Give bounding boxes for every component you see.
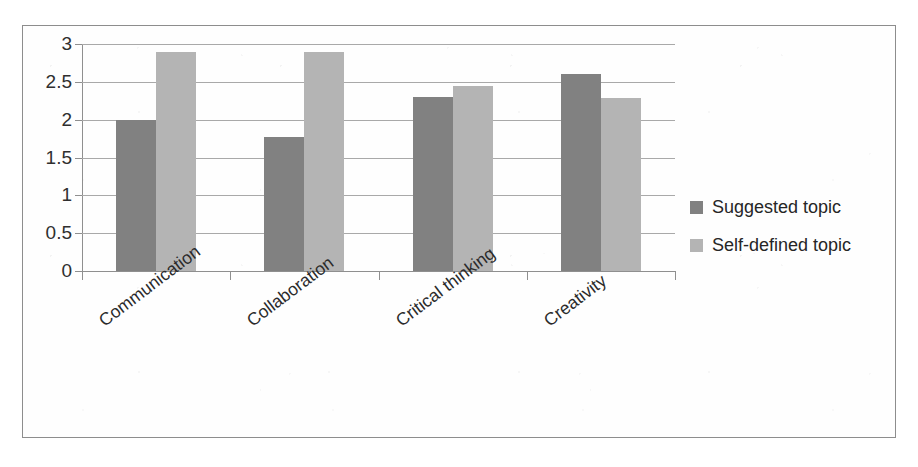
legend-label-1: Self-defined topic (712, 236, 851, 254)
chart-legend: Suggested topicSelf-defined topic (690, 196, 880, 272)
legend-item-self-defined-topic: Self-defined topic (690, 234, 880, 256)
bar-collaboration-suggested-topic (264, 137, 304, 271)
y-tick-label-0.5: 0.5 (24, 223, 72, 242)
y-tick-mark-0 (75, 271, 82, 272)
y-tick-mark-3 (75, 44, 82, 45)
y-tick-label-0: 0 (24, 261, 72, 280)
bar-creativity-self-defined-topic (601, 98, 641, 271)
x-tick-mark-1 (230, 271, 231, 280)
y-tick-label-3: 3 (24, 34, 72, 53)
y-tick-label-1.5: 1.5 (24, 148, 72, 167)
y-tick-label-2: 2 (24, 110, 72, 129)
bar-communication-suggested-topic (116, 120, 156, 271)
y-tick-mark-1 (75, 195, 82, 196)
bar-communication-self-defined-topic (156, 52, 196, 271)
bar-critical-thinking-suggested-topic (413, 97, 453, 271)
plot-area (82, 44, 675, 271)
legend-item-suggested-topic: Suggested topic (690, 196, 880, 218)
legend-swatch-icon-1 (690, 239, 703, 252)
x-tick-mark-2 (379, 271, 380, 280)
y-tick-mark-2.5 (75, 82, 82, 83)
x-tick-mark-0 (82, 271, 83, 280)
y-tick-label-1: 1 (24, 185, 72, 204)
bar-creativity-suggested-topic (561, 74, 601, 271)
legend-swatch-icon-0 (690, 201, 703, 214)
y-tick-mark-2 (75, 120, 82, 121)
x-tick-mark-3 (527, 271, 528, 280)
y-axis-labels: 00.511.522.53 (20, 0, 72, 467)
y-tick-label-2.5: 2.5 (24, 72, 72, 91)
bar-collaboration-self-defined-topic (304, 52, 344, 271)
legend-label-0: Suggested topic (712, 198, 841, 216)
y-tick-mark-1.5 (75, 158, 82, 159)
y-tick-mark-0.5 (75, 233, 82, 234)
x-tick-mark-4 (675, 271, 676, 280)
